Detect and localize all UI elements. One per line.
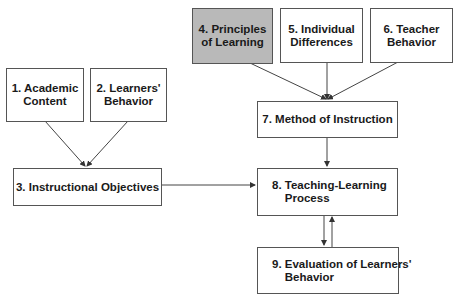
edge-4-7 [250,63,326,99]
node-individual-differences: 5. Individual Differences [280,8,363,63]
edge-6-7 [328,62,398,99]
node-label: 2. Learners' Behavior [96,82,160,108]
node-label: 5. Individual Differences [288,23,354,49]
edge-1-3 [45,121,85,166]
node-label: 3. Instructional Objectives [16,181,159,194]
node-academic-content: 1. Academic Content [6,68,84,122]
node-learners-behavior: 2. Learners' Behavior [90,68,167,122]
node-label: 6. Teacher Behavior [383,23,439,49]
node-method-of-instruction: 7. Method of Instruction [257,101,398,138]
node-teacher-behavior: 6. Teacher Behavior [370,8,453,63]
node-teaching-learning-process: 8. Teaching-Learning Process [257,168,398,216]
node-label: 1. Academic Content [12,82,79,108]
edge-2-3 [87,121,128,166]
node-instructional-objectives: 3. Instructional Objectives [13,168,162,206]
node-label: 7. Method of Instruction [262,113,392,126]
node-label: 4. Principles of Learning [199,23,267,49]
node-principles-of-learning: 4. Principles of Learning [192,8,273,64]
node-label: 9. Evaluation of Learners' Behavior [258,258,412,284]
node-evaluation-of-learners-behavior: 9. Evaluation of Learners' Behavior [257,247,399,294]
node-label: 8. Teaching-Learning Process [258,179,387,205]
